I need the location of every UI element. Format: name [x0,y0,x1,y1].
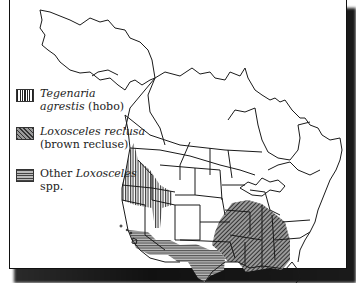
map-outlines [40,10,342,283]
alaska-outline [40,10,155,90]
east-coast [298,150,342,262]
range-map [0,0,356,283]
canada-arctic-coast [155,68,342,150]
great-lakes [240,178,285,196]
